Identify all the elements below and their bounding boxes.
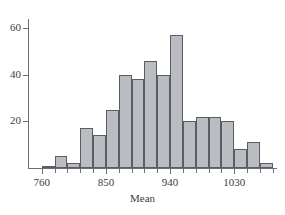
x-axis-tick (67, 169, 68, 173)
histogram-chart: 204060 7608509401030 Mean (0, 0, 285, 215)
x-axis-tick (273, 169, 274, 173)
x-axis-tick (260, 169, 261, 173)
histogram-bar (132, 79, 145, 168)
histogram-bar (209, 117, 222, 168)
x-axis-tick (221, 169, 222, 173)
x-axis-major-tick (42, 169, 43, 174)
histogram-bar (67, 163, 80, 168)
histogram-bars (29, 14, 277, 168)
x-axis-tick (144, 169, 145, 173)
x-axis-tick (93, 169, 94, 173)
histogram-bar (183, 121, 196, 168)
x-axis-major-tick (170, 169, 171, 174)
histogram-bar (93, 135, 106, 168)
histogram-bar (234, 149, 247, 168)
x-axis-tick (157, 169, 158, 173)
x-axis-major-tick (234, 169, 235, 174)
histogram-bar (144, 61, 157, 168)
x-axis-line (28, 168, 277, 169)
x-axis-tick (119, 169, 120, 173)
histogram-bar (119, 75, 132, 168)
x-axis-tick-label: 940 (162, 176, 179, 188)
x-axis-tick (55, 169, 56, 173)
x-axis-title: Mean (0, 192, 285, 204)
histogram-bar (170, 35, 183, 168)
histogram-bar (221, 121, 234, 168)
histogram-bar (55, 156, 68, 168)
histogram-bar (157, 75, 170, 168)
y-axis-tick-label: 40 (0, 69, 21, 80)
x-axis-tick (196, 169, 197, 173)
histogram-bar (247, 142, 260, 168)
x-axis-tick-label: 760 (34, 176, 51, 188)
histogram-bar (80, 128, 93, 168)
histogram-bar (42, 166, 55, 168)
x-axis-tick (183, 169, 184, 173)
histogram-bar (196, 117, 209, 168)
y-axis-tick-label: 60 (0, 22, 21, 33)
x-axis-tick-label: 850 (98, 176, 115, 188)
x-axis-tick (80, 169, 81, 173)
x-axis-major-tick (106, 169, 107, 174)
x-axis-tick (247, 169, 248, 173)
x-axis-tick (209, 169, 210, 173)
plot-area (29, 14, 277, 168)
histogram-bar (106, 110, 119, 168)
histogram-bar (260, 163, 273, 168)
x-axis-tick (132, 169, 133, 173)
x-axis-tick-label: 1030 (223, 176, 245, 188)
y-axis-tick-label: 20 (0, 115, 21, 126)
